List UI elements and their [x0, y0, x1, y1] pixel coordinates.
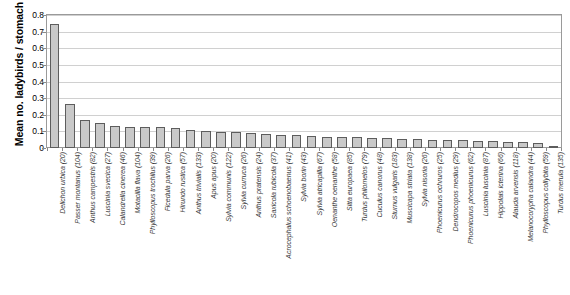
x-label-slot: Sylvia atricapilla (67): [304, 152, 319, 294]
bar: [443, 140, 453, 148]
bar: [382, 138, 392, 148]
x-tick-mark: [440, 148, 441, 151]
x-tick-mark: [485, 148, 486, 151]
x-label-slot: Delichon urbica (20): [47, 152, 62, 294]
x-label-slot: Anthus pratensis (24): [244, 152, 259, 294]
x-tick-mark: [334, 148, 335, 151]
bar: [276, 135, 286, 148]
bar: [95, 123, 105, 148]
bar: [322, 137, 332, 148]
x-tick-mark: [364, 148, 365, 151]
x-label-slot: Passer montanus (104): [62, 152, 77, 294]
x-label-slot: Sylvia curruca (26): [228, 152, 243, 294]
bar: [156, 127, 166, 148]
x-label-slot: Phylloscopus trochilus (39): [138, 152, 153, 294]
y-axis-ticks: 00.10.20.30.40.50.60.70.8: [0, 14, 44, 148]
x-label-slot: Phylloscopus collybita (59): [531, 152, 546, 294]
bar: [140, 127, 150, 148]
x-tick-mark: [92, 148, 93, 151]
x-label-slot: Sylvia nisoria (26): [410, 152, 425, 294]
x-label-slot: Dendrocopos medius (29): [440, 152, 455, 294]
x-tick-mark: [62, 148, 63, 151]
bar: [488, 141, 498, 148]
x-label-slot: Phoenicurus phoenicurus (62): [455, 152, 470, 294]
y-tick-mark: [42, 148, 46, 149]
x-tick-mark: [319, 148, 320, 151]
bar: [125, 127, 135, 148]
bar: [261, 134, 271, 148]
bar: [216, 132, 226, 148]
x-tick-mark: [107, 148, 108, 151]
y-tick-label: 0.2: [4, 110, 44, 120]
bar: [80, 120, 90, 148]
x-tick-mark: [410, 148, 411, 151]
y-tick-label: 0: [4, 143, 44, 153]
x-tick-mark: [183, 148, 184, 151]
x-label-slot: Hippolais icterina (66): [485, 152, 500, 294]
bar: [458, 140, 468, 148]
bar-chart: Mean no. ladybirds / stomach 00.10.20.30…: [0, 0, 570, 295]
bar: [413, 139, 423, 148]
x-label-slot: Apus apus (20): [198, 152, 213, 294]
x-tick-mark: [213, 148, 214, 151]
x-tick-mark: [304, 148, 305, 151]
x-label-slot: Hirundo rustica (57): [168, 152, 183, 294]
x-tick-mark: [470, 148, 471, 151]
x-label-slot: Motacilla flava (104): [123, 152, 138, 294]
y-tick-label: 0.3: [4, 93, 44, 103]
bar: [50, 24, 60, 148]
x-tick-mark: [168, 148, 169, 151]
x-axis-labels: Delichon urbica (20)Passer montanus (104…: [47, 152, 561, 294]
x-label-slot: Turdus merula (135): [546, 152, 561, 294]
x-tick-mark: [349, 148, 350, 151]
x-tick-mark: [395, 148, 396, 151]
bar: [246, 133, 256, 148]
bar: [110, 126, 120, 148]
x-label-slot: Anthus campestris (82): [77, 152, 92, 294]
y-tick-label: 0.5: [4, 60, 44, 70]
x-label-slot: Muscicapa striata (138): [395, 152, 410, 294]
x-label-slot: Sitta europaea (85): [334, 152, 349, 294]
x-tick-mark: [531, 148, 532, 151]
x-tick-mark: [561, 148, 562, 151]
x-label-slot: Sturnus vulgaris (183): [380, 152, 395, 294]
x-tick-mark: [274, 148, 275, 151]
x-tick-mark: [244, 148, 245, 151]
bar: [65, 104, 75, 148]
bar: [186, 130, 196, 148]
y-tick-label: 0.1: [4, 126, 44, 136]
bar: [473, 141, 483, 148]
x-label-slot: Oenanthe oenanthe (58): [319, 152, 334, 294]
bar: [367, 138, 377, 148]
x-tick-mark: [289, 148, 290, 151]
x-tick-mark: [153, 148, 154, 151]
bar: [171, 128, 181, 148]
x-label-slot: Cuculus canorus (48): [364, 152, 379, 294]
x-label-slot: Calandrella cinerea (46): [107, 152, 122, 294]
x-label-slot: Anthus trivialis (133): [183, 152, 198, 294]
x-tick-mark: [47, 148, 48, 151]
x-label-slot: Turdus philomelos (79): [349, 152, 364, 294]
x-tick-mark: [501, 148, 502, 151]
x-label-slot: Ficedula parva (26): [153, 152, 168, 294]
bar: [352, 137, 362, 148]
x-label-slot: Sylvia borin (43): [289, 152, 304, 294]
x-label-slot: Acrocephalus schoenobaenus (41): [274, 152, 289, 294]
bar: [397, 139, 407, 148]
x-tick-mark: [138, 148, 139, 151]
x-label-slot: Melanocorypha calandra (44): [516, 152, 531, 294]
x-label-slot: Phoenicurus ochruros (25): [425, 152, 440, 294]
y-tick-label: 0.4: [4, 77, 44, 87]
y-tick-label: 0.8: [4, 10, 44, 20]
y-tick-label: 0.7: [4, 27, 44, 37]
x-tick-mark: [198, 148, 199, 151]
x-tick-label: Turdus merula (135): [557, 152, 564, 214]
bar: [337, 137, 347, 148]
bar: [292, 135, 302, 148]
bar: [231, 132, 241, 148]
bar: [428, 140, 438, 148]
x-tick-mark: [455, 148, 456, 151]
x-label-slot: Sylvia communis (122): [213, 152, 228, 294]
x-label-slot: Saxicola rubicola (37): [259, 152, 274, 294]
bar: [201, 131, 211, 148]
